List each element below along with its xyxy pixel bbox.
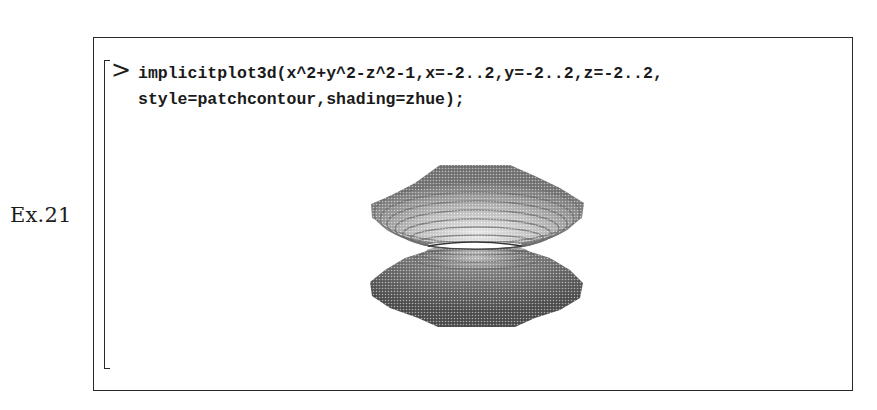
input-line-2: style=patchcontour,shading=zhue);: [138, 90, 465, 109]
hyperboloid-plot-icon: [360, 158, 595, 336]
input-prompt: >: [111, 58, 131, 82]
example-label: Ex.21: [10, 203, 72, 227]
execution-group-bracket[interactable]: [104, 60, 110, 369]
input-line-1: implicitplot3d(x^2+y^2-z^2-1,x=-2..2,y=-…: [138, 64, 663, 83]
maple-input[interactable]: implicitplot3d(x^2+y^2-z^2-1,x=-2..2,y=-…: [138, 61, 663, 113]
plot-output[interactable]: [360, 158, 595, 336]
